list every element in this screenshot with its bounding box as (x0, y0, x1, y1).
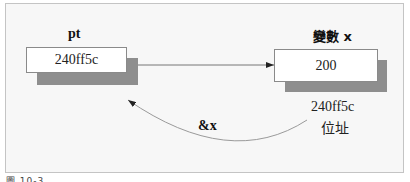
address-of-curved-arrow (128, 100, 307, 141)
arrows-layer (0, 0, 410, 182)
variable-address-value: 240ff5c (311, 99, 354, 115)
variable-address-label: 位址 (321, 117, 349, 137)
figure-caption: 圖 10-3 (6, 174, 44, 182)
address-of-label: &x (198, 118, 217, 134)
